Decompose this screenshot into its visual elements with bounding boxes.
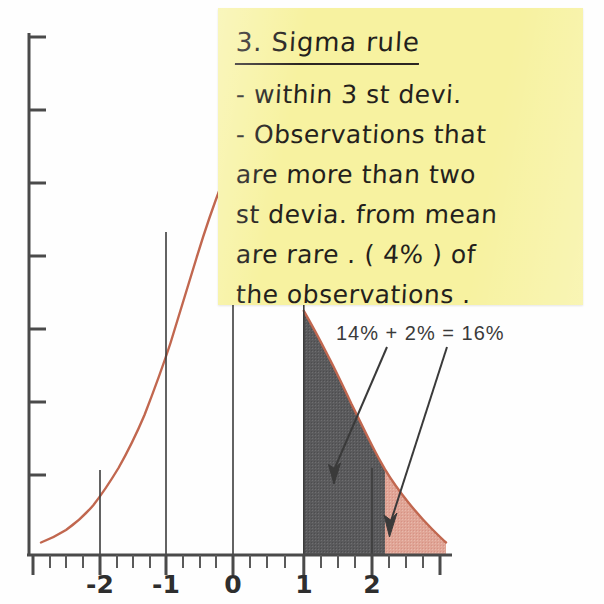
arrow-to-pink-region-line — [391, 347, 447, 521]
sticky-note-line-3: are more than two — [235, 155, 570, 195]
x-axis-minor-ticks — [50, 555, 423, 568]
sticky-note-line-2: - Observations that — [235, 115, 570, 155]
figure-canvas: -2 -1 0 1 2 14% + 2% = 16% 3. Sigma rule… — [0, 0, 604, 604]
sticky-note-line-6: the observations . — [235, 275, 570, 305]
x-tick-label-2: 2 — [363, 570, 380, 599]
sticky-note-body: 3. Sigma rule - within 3 st devi. - Obse… — [218, 8, 583, 305]
x-tick-label-1: 1 — [295, 570, 312, 599]
sticky-note[interactable]: 3. Sigma rule - within 3 st devi. - Obse… — [218, 8, 583, 305]
shaded-region-one-to-two-sigma — [304, 311, 385, 555]
y-axis-ticks — [29, 37, 46, 475]
sticky-note-title: 3. Sigma rule — [235, 22, 421, 65]
annotation-label: 14% + 2% = 16% — [336, 322, 505, 345]
sticky-note-line-1: - within 3 st devi. — [235, 75, 570, 115]
sticky-note-line-4: st devia. from mean — [235, 195, 570, 235]
sticky-note-line-5: are rare . ( 4% ) of — [235, 235, 570, 275]
x-tick-label-0: 0 — [224, 570, 241, 599]
x-tick-label--2: -2 — [86, 570, 114, 599]
x-tick-label--1: -1 — [152, 570, 180, 599]
